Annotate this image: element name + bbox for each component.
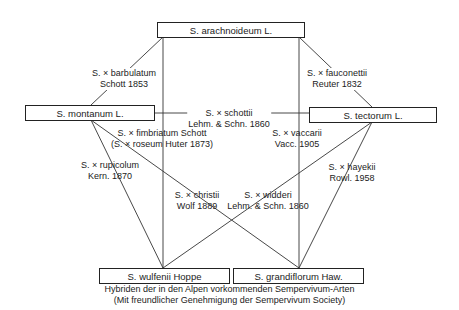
hybrid-name: S. × widderi [227, 190, 309, 201]
hybrid-name: S. × christii [175, 190, 219, 201]
species-grandiflorum-box: S. grandiflorum Haw. [233, 268, 364, 284]
hybrid-name: S. × hayekii [329, 162, 376, 173]
hybrid-author: Reuter 1832 [307, 79, 367, 90]
hybrid-author: Schott 1853 [92, 79, 156, 90]
hybrid-author: Vacc. 1905 [272, 139, 321, 150]
species-wulfenii-box: S. wulfenii Hoppe [99, 268, 230, 284]
hybrid-name: S. × fauconettii [307, 68, 367, 79]
hybrid-label-rupicolum: S. × rupicolum Kern. 1870 [80, 160, 140, 182]
species-tectorum-box: S. tectorum L. [309, 107, 437, 123]
hybrid-name: S. × schottii [188, 108, 270, 119]
hybrid-author: Rowl. 1958 [329, 173, 376, 184]
hybrid-label-fimbriatum: S. × fimbriatum Schott (S. × roseum Hute… [110, 128, 214, 150]
connection-lines [0, 0, 459, 310]
species-arachnoideum-box: S. arachnoideum L. [157, 22, 305, 38]
species-montanum-box: S. montanum L. [25, 105, 155, 121]
hybrid-name: S. × fimbriatum Schott [111, 128, 213, 139]
hybrid-label-schottii: S. × schottii Lehm. & Schn. 1860 [187, 108, 271, 130]
caption-line-1: Hybriden der in den Alpen vorkommenden S… [0, 284, 459, 295]
hybrid-label-barbulatum: S. × barbulatum Schott 1853 [91, 68, 157, 90]
hybrid-label-fauconettii: S. × fauconettii Reuter 1832 [306, 68, 368, 90]
hybrid-name: S. × vaccarii [272, 128, 321, 139]
hybrid-label-christii: S. × christii Wolf 1889 [174, 190, 220, 212]
caption-line-2: (Mit freundlicher Genehmigung der Semper… [0, 295, 459, 306]
hybrid-author: (S. × roseum Huter 1873) [111, 139, 213, 150]
hybrid-name: S. × barbulatum [92, 68, 156, 79]
hybrid-label-vaccarii: S. × vaccarii Vacc. 1905 [271, 128, 322, 150]
hybrid-author: Kern. 1870 [81, 171, 139, 182]
hybrid-author: Wolf 1889 [175, 201, 219, 212]
hybrid-name: S. × rupicolum [81, 160, 139, 171]
hybrid-author: Lehm. & Schn. 1860 [227, 201, 309, 212]
hybrid-label-widderi: S. × widderi Lehm. & Schn. 1860 [226, 190, 310, 212]
hybrid-label-hayekii: S. × hayekii Rowl. 1958 [328, 162, 377, 184]
